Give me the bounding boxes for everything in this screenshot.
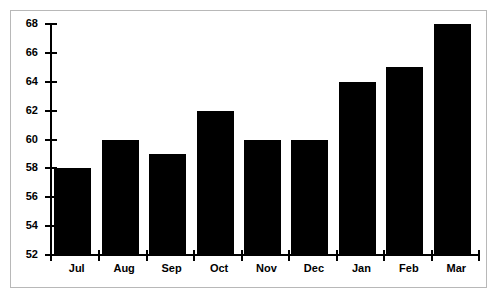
- y-axis-tick: [45, 52, 57, 54]
- x-axis-tick: [98, 250, 100, 261]
- x-axis-tick: [431, 250, 433, 261]
- bar-sep: [149, 154, 186, 255]
- y-axis-tick-label: 58: [12, 162, 38, 173]
- x-axis-tick: [241, 250, 243, 261]
- y-axis-tick-label: 60: [12, 134, 38, 145]
- y-axis-tick-label-text: 56: [12, 191, 38, 202]
- bar-aug: [102, 140, 139, 256]
- bar-oct: [197, 111, 234, 255]
- x-axis-tick: [50, 250, 52, 261]
- y-axis-tick: [45, 23, 57, 25]
- y-axis-tick-label-text: 64: [12, 76, 38, 87]
- bar-dec: [291, 140, 328, 256]
- x-axis-label-dec: Dec: [290, 262, 337, 275]
- bar-feb: [386, 67, 423, 255]
- x-axis-label-oct: Oct: [195, 262, 242, 275]
- y-axis-tick-label-text: 52: [12, 249, 38, 260]
- y-axis-tick-label-text: 68: [12, 18, 38, 29]
- y-axis-tick-label: 68: [12, 18, 38, 29]
- y-axis-tick-label: 66: [12, 47, 38, 58]
- x-axis-label-aug: Aug: [100, 262, 147, 275]
- y-axis-tick-label-text: 54: [12, 220, 38, 231]
- x-axis-label-sep: Sep: [148, 262, 195, 275]
- x-axis-tick: [193, 250, 195, 261]
- x-axis-tick: [336, 250, 338, 261]
- x-axis-label-feb: Feb: [385, 262, 432, 275]
- x-axis-label-mar: Mar: [433, 262, 480, 275]
- y-axis-tick: [45, 110, 57, 112]
- bar-mar: [434, 24, 471, 255]
- y-axis-tick-label: 62: [12, 105, 38, 116]
- x-axis-tick: [146, 250, 148, 261]
- x-axis-label-nov: Nov: [243, 262, 290, 275]
- x-axis-label-jul: Jul: [53, 262, 100, 275]
- bar-chart-figure: 525456586062646668 JulAugSepOctNovDecJan…: [0, 0, 500, 298]
- x-axis-tick: [288, 250, 290, 261]
- y-axis-tick-label: 54: [12, 220, 38, 231]
- y-axis-tick-label: 64: [12, 76, 38, 87]
- y-axis-tick-label: 52: [12, 249, 38, 260]
- x-axis-label-jan: Jan: [338, 262, 385, 275]
- y-axis-tick-label-text: 66: [12, 47, 38, 58]
- y-axis-tick: [45, 139, 57, 141]
- x-axis-tick: [383, 250, 385, 261]
- bar-jan: [339, 82, 376, 255]
- bar-nov: [244, 140, 281, 256]
- y-axis-tick-label-text: 60: [12, 134, 38, 145]
- y-axis-tick-label-text: 62: [12, 105, 38, 116]
- y-axis-tick-label-text: 58: [12, 162, 38, 173]
- bar-jul: [54, 168, 91, 255]
- y-axis-tick: [45, 81, 57, 83]
- x-axis-tick: [478, 250, 480, 261]
- y-axis-tick-label: 56: [12, 191, 38, 202]
